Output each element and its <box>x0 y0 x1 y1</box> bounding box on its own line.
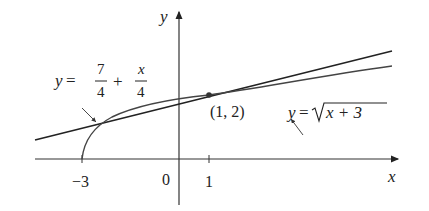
svg-text:4: 4 <box>137 84 145 100</box>
svg-text:x: x <box>137 61 145 77</box>
y-axis-label: y <box>158 7 168 26</box>
tangent-line <box>35 51 392 140</box>
x-axis-label: x <box>387 167 396 186</box>
svg-text:=: = <box>299 103 309 122</box>
sqrt-equation: y y = x + 3 <box>286 103 387 122</box>
point-label: (1, 2) <box>210 103 245 121</box>
graph-canvas: y x −3 0 1 (1, 2) y = 7 4 + x 4 y y = x … <box>0 0 429 211</box>
svg-text:x + 3: x + 3 <box>325 103 362 122</box>
tangent-point <box>206 92 212 98</box>
tick-label-0: 0 <box>162 171 170 188</box>
svg-text:=: = <box>66 71 76 90</box>
svg-text:y: y <box>286 103 296 122</box>
tick-label-1: 1 <box>205 173 213 190</box>
svg-text:4: 4 <box>97 84 105 100</box>
svg-text:y: y <box>53 71 63 90</box>
svg-text:+: + <box>113 72 123 91</box>
tick-label-minus3: −3 <box>72 173 89 190</box>
svg-text:7: 7 <box>97 61 105 77</box>
tangent-label-arrow <box>82 108 96 122</box>
tangent-equation: y = 7 4 + x 4 <box>53 61 147 100</box>
